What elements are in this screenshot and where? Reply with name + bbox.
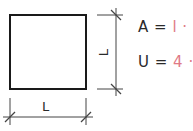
perimeter-formula-lhs: U = — [138, 53, 168, 71]
area-formula-lhs: A = — [138, 18, 167, 36]
area-formula: A = l · l — [138, 18, 193, 36]
perimeter-formula: U = 4 · l — [138, 53, 193, 71]
area-formula-rhs: l · l — [172, 18, 193, 36]
square-shape — [10, 15, 86, 89]
right-dimension-label: L — [96, 49, 111, 56]
bottom-dimension-label: L — [42, 99, 49, 114]
perimeter-formula-rhs: 4 · l — [173, 53, 193, 71]
